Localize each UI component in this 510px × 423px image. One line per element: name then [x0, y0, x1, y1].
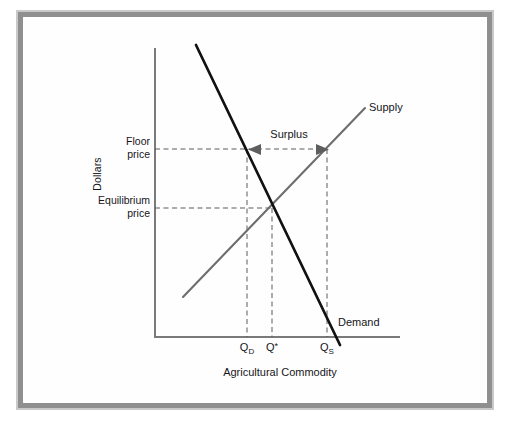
equilibrium-price-label-line1: Equilibrium [45, 194, 150, 207]
equilibrium-price-label: Equilibrium price [45, 194, 150, 219]
qstar-base: Q [266, 341, 275, 353]
floor-price-label: Floor price [55, 135, 150, 160]
equilibrium-price-label-line2: price [45, 207, 150, 220]
qs-tick-label: QS [310, 341, 344, 356]
surplus-arrow [248, 144, 329, 155]
floor-price-label-line2: price [55, 148, 150, 161]
surplus-annotation-label: Surplus [248, 128, 330, 140]
supply-curve-label: Supply [369, 101, 403, 113]
qstar-tick-label: Q* [255, 341, 289, 353]
supply-demand-chart: Dollars Floor price Equilibrium price Su… [0, 0, 510, 423]
demand-curve [196, 45, 340, 345]
x-axis-title: Agricultural Commodity [170, 366, 390, 378]
demand-curve-label: Demand [338, 316, 380, 328]
floor-price-label-line1: Floor [55, 135, 150, 148]
qs-base: Q [320, 341, 329, 353]
qs-subscript: S [329, 347, 334, 356]
qstar-superscript: * [275, 341, 279, 351]
qd-subscript: D [248, 347, 254, 356]
